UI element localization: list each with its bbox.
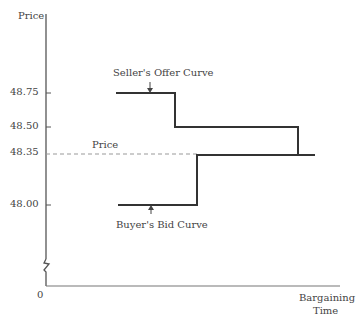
tick-label-48-50: 48.50 (10, 120, 39, 131)
tick-label-48-35: 48.35 (10, 146, 39, 157)
seller-curve-label: Seller's Offer Curve (113, 67, 214, 78)
tick-label-48-75: 48.75 (10, 86, 39, 97)
price-reference-label: Price (92, 139, 118, 150)
y-axis-label: Price (18, 10, 44, 21)
origin-label: 0 (37, 289, 43, 300)
y-ticks (46, 93, 51, 205)
seller-arrow-icon (147, 82, 153, 93)
tick-label-48-00: 48.00 (10, 198, 39, 209)
buyer-bid-curve (118, 155, 315, 205)
chart-canvas (0, 0, 363, 324)
buyer-curve-label: Buyer's Bid Curve (116, 219, 208, 230)
y-axis (44, 14, 49, 286)
x-axis-label-line2: Time (313, 305, 338, 316)
seller-offer-curve (116, 93, 298, 155)
x-axis-label-line1: Bargaining (299, 292, 355, 303)
buyer-arrow-icon (148, 205, 154, 214)
